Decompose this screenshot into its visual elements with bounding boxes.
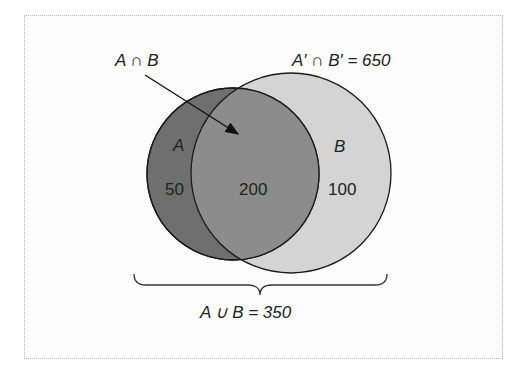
union-label: A ∪ B = 350 (200, 304, 291, 321)
a-only-value: 50 (165, 181, 184, 198)
complement-label: A′ ∩ B′ = 650 (292, 52, 390, 69)
intersection-value: 200 (239, 181, 267, 198)
set-b-label: B (334, 138, 345, 155)
set-a-label: A (173, 137, 184, 154)
union-brace (134, 274, 387, 295)
b-only-value: 100 (328, 181, 356, 198)
intersection-label: A ∩ B (115, 52, 159, 69)
